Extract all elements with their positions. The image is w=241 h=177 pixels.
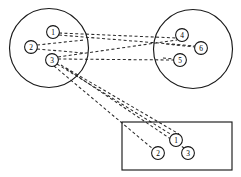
inter-cluster-edges bbox=[54, 33, 195, 149]
node-bottom-3-circle[interactable] bbox=[182, 147, 195, 160]
node-bottom-1-circle[interactable] bbox=[170, 134, 183, 147]
right-cluster-boundary[interactable] bbox=[154, 10, 233, 89]
edge-right5-right6 bbox=[163, 58, 174, 59]
edge-left3-right4 bbox=[58, 40, 177, 57]
node-left-3-circle[interactable] bbox=[46, 54, 59, 67]
diagram-canvas: Three-cluster node diagram with dashed i… bbox=[0, 0, 241, 177]
node-left-1[interactable]: 1 bbox=[47, 26, 60, 39]
node-right-4[interactable]: 4 bbox=[176, 29, 189, 42]
right-cluster-nodes: 4 5 6 bbox=[174, 29, 208, 67]
edge-left2-left3 bbox=[37, 49, 84, 53]
node-bottom-2[interactable]: 2 bbox=[152, 147, 165, 160]
edge-left3-right5 bbox=[58, 59, 174, 60]
diagram-svg: Three-cluster node diagram with dashed i… bbox=[0, 0, 241, 177]
left-cluster-boundary[interactable] bbox=[10, 9, 89, 88]
edge-left1-right4 bbox=[59, 33, 177, 38]
node-left-1-circle[interactable] bbox=[47, 26, 60, 39]
edge-left1-right6 bbox=[59, 35, 195, 46]
node-left-2-circle[interactable] bbox=[25, 41, 38, 54]
edge-left3-bottom1 bbox=[57, 64, 172, 135]
node-right-5[interactable]: 5 bbox=[174, 54, 187, 67]
node-bottom-3[interactable]: 3 bbox=[182, 147, 195, 160]
node-right-5-circle[interactable] bbox=[174, 54, 187, 67]
node-right-6[interactable]: 6 bbox=[195, 42, 208, 55]
bottom-cluster-nodes: 1 2 3 bbox=[152, 134, 195, 160]
node-right-4-circle[interactable] bbox=[176, 29, 189, 42]
node-bottom-2-circle[interactable] bbox=[152, 147, 165, 160]
cluster-boundaries bbox=[10, 9, 233, 171]
node-bottom-1[interactable]: 1 bbox=[170, 134, 183, 147]
edge-left3-bottom2 bbox=[54, 66, 153, 149]
edge-left2-left1 bbox=[37, 40, 84, 45]
left-cluster-nodes: 1 2 3 bbox=[25, 26, 60, 67]
node-left-2[interactable]: 2 bbox=[25, 41, 38, 54]
node-left-3[interactable]: 3 bbox=[46, 54, 59, 67]
node-right-6-circle[interactable] bbox=[195, 42, 208, 55]
